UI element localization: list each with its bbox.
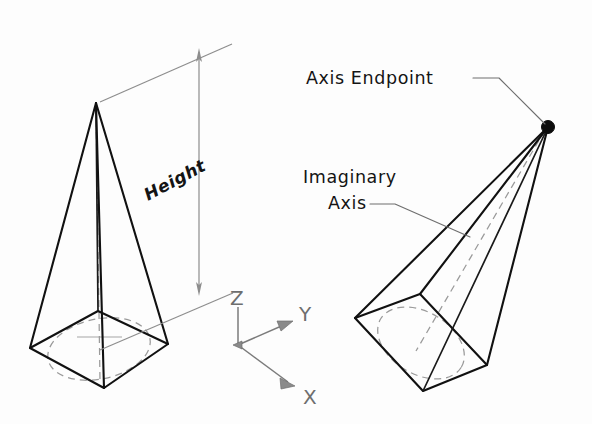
axis-endpoint-leader-line [473,78,545,124]
axis-line-y [238,324,286,345]
axis-endpoint-label: Axis Endpoint [306,68,434,88]
coordinate-axis-triad: Z Y X [230,286,317,409]
imaginary-axis-label-line2: Axis [328,193,367,213]
imaginary-axis-label-line1: Imaginary [303,167,397,187]
axis-endpoint-callout: Axis Endpoint [306,68,545,124]
technical-diagram-svg: Height Z Y X [0,0,592,424]
height-extension-line-top [100,44,232,102]
axis-label-x: X [303,385,317,409]
axis-arrow-y [277,321,293,331]
right-pyramid-lateral-edge-right [487,127,548,365]
axis-arrow-x [280,378,295,389]
axis-label-z: Z [230,286,244,310]
right-pyramid-imaginary-axis [416,130,545,351]
right-pyramid-group [355,121,555,394]
diagram-canvas: Height Z Y X [0,0,592,424]
left-pyramid-lateral-edge-right [96,103,168,344]
axis-line-x [238,345,288,382]
left-pyramid-lateral-edge-left [30,103,96,348]
imaginary-axis-callout: Imaginary Axis [303,167,470,237]
height-dimension-group: Height [100,44,233,350]
right-pyramid-lateral-edge-top-back [420,127,548,294]
right-pyramid-lateral-edge-front [423,127,548,391]
left-pyramid-group [30,103,168,389]
axis-label-y: Y [298,302,312,326]
